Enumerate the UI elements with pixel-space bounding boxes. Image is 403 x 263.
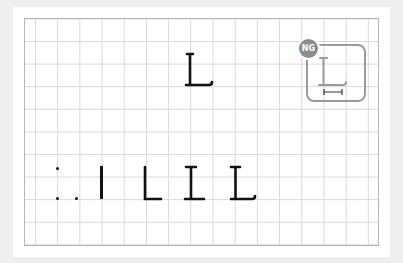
stroke-step-4 xyxy=(141,164,165,202)
stroke-step-5 xyxy=(183,164,207,202)
ng-letter-l-icon xyxy=(315,55,351,97)
stroke-step-6 xyxy=(228,164,258,202)
stroke-step-3 xyxy=(100,166,103,199)
stroke-step-2 xyxy=(75,197,78,200)
target-letter-l xyxy=(183,52,215,88)
